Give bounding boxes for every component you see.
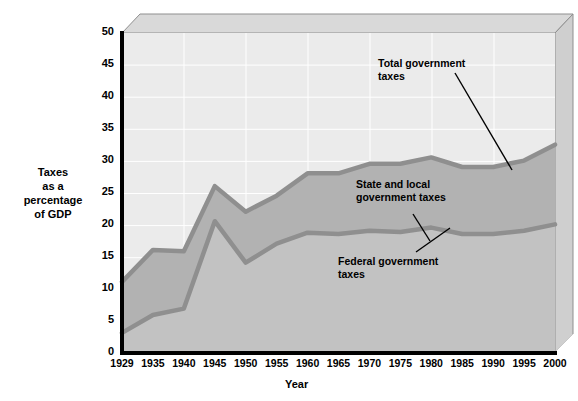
- x-tick-1990: 1990: [476, 357, 510, 369]
- x-tick-1955: 1955: [260, 357, 294, 369]
- x-tick-1970: 1970: [352, 357, 386, 369]
- annotation-total-taxes: Total government taxes: [378, 57, 465, 83]
- x-tick-1935: 1935: [136, 357, 170, 369]
- annotation-state-local-taxes: State and local government taxes: [356, 178, 446, 204]
- y-tick-40: 40: [88, 89, 114, 101]
- y-tick-30: 30: [88, 153, 114, 165]
- x-tick-2000: 2000: [538, 357, 572, 369]
- x-tick-1965: 1965: [322, 357, 356, 369]
- x-tick-1945: 1945: [198, 357, 232, 369]
- y-tick-25: 25: [88, 185, 114, 197]
- y-axis-title: Taxes as a percentage of GDP: [10, 165, 96, 221]
- x-tick-1975: 1975: [383, 357, 417, 369]
- y-tick-10: 10: [88, 281, 114, 293]
- x-tick-1940: 1940: [167, 357, 201, 369]
- y-tick-5: 5: [88, 313, 114, 325]
- y-tick-45: 45: [88, 57, 114, 69]
- frame-right-face: [555, 14, 573, 352]
- x-axis-title: Year: [285, 378, 308, 390]
- x-tick-1995: 1995: [507, 357, 541, 369]
- x-tick-1950: 1950: [229, 357, 263, 369]
- x-tick-1960: 1960: [291, 357, 325, 369]
- y-tick-20: 20: [88, 217, 114, 229]
- annotation-federal-taxes: Federal government taxes: [338, 255, 438, 281]
- frame-top-face: [122, 14, 573, 33]
- y-tick-15: 15: [88, 249, 114, 261]
- tax-area-chart: Taxes as a percentage of GDP Year 0 5 10…: [0, 0, 578, 401]
- y-tick-0: 0: [88, 345, 114, 357]
- y-tick-50: 50: [88, 25, 114, 37]
- x-tick-1929: 1929: [105, 357, 139, 369]
- x-tick-1985: 1985: [445, 357, 479, 369]
- x-tick-1980: 1980: [414, 357, 448, 369]
- y-tick-35: 35: [88, 121, 114, 133]
